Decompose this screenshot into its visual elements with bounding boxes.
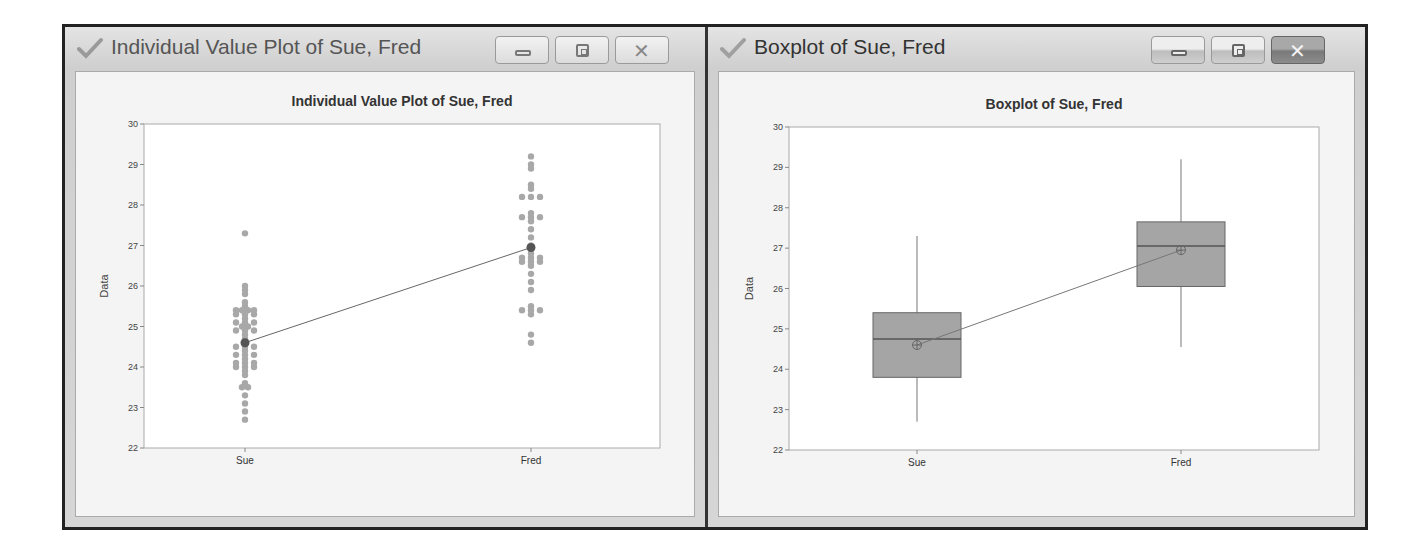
checkmark-icon xyxy=(720,37,746,59)
data-point xyxy=(528,161,534,167)
chart-title: Boxplot of Sue, Fred xyxy=(986,96,1123,112)
individual-value-plot-window: Individual Value Plot of Sue, Fred ✕ Ind… xyxy=(65,27,708,527)
plot-area: Boxplot of Sue, Fred222324252627282930Da… xyxy=(718,71,1355,517)
y-tick-label: 22 xyxy=(128,443,138,453)
data-point xyxy=(242,230,248,236)
y-axis-label: Data xyxy=(743,276,755,300)
window-title: Individual Value Plot of Sue, Fred xyxy=(111,35,421,59)
window-title: Boxplot of Sue, Fred xyxy=(754,35,945,59)
checkmark-icon xyxy=(77,37,103,59)
data-point xyxy=(528,226,534,232)
title-bar[interactable]: Individual Value Plot of Sue, Fred ✕ xyxy=(65,27,705,71)
y-tick-label: 30 xyxy=(773,122,783,132)
data-point xyxy=(242,283,248,289)
x-tick-label: Fred xyxy=(521,455,542,466)
data-point xyxy=(528,182,534,188)
data-point xyxy=(528,287,534,293)
minimize-button[interactable] xyxy=(495,36,549,64)
maximize-button[interactable] xyxy=(555,36,609,64)
data-point xyxy=(528,271,534,277)
y-tick-label: 25 xyxy=(128,322,138,332)
data-point xyxy=(528,279,534,285)
y-tick-label: 25 xyxy=(773,324,783,334)
y-tick-label: 23 xyxy=(128,403,138,413)
y-tick-label: 29 xyxy=(128,160,138,170)
x-tick-label: Fred xyxy=(1171,457,1192,468)
data-point xyxy=(242,400,248,406)
y-tick-label: 24 xyxy=(773,364,783,374)
mean-marker xyxy=(527,243,536,252)
y-tick-label: 29 xyxy=(773,162,783,172)
y-tick-label: 28 xyxy=(773,203,783,213)
mean-marker xyxy=(241,338,250,347)
close-button[interactable]: ✕ xyxy=(1271,36,1325,64)
y-tick-label: 24 xyxy=(128,362,138,372)
minimize-icon xyxy=(515,50,531,56)
individual-value-chart: Individual Value Plot of Sue, Fred222324… xyxy=(76,72,694,516)
chart-title: Individual Value Plot of Sue, Fred xyxy=(292,93,513,109)
x-tick-label: Sue xyxy=(236,455,254,466)
boxplot-chart: Boxplot of Sue, Fred222324252627282930Da… xyxy=(719,72,1354,516)
data-point xyxy=(242,416,248,422)
title-bar[interactable]: Boxplot of Sue, Fred ✕ xyxy=(708,27,1365,71)
data-point xyxy=(528,153,534,159)
data-point xyxy=(528,331,534,337)
app-frame: Individual Value Plot of Sue, Fred ✕ Ind… xyxy=(62,24,1368,530)
data-point xyxy=(528,303,534,309)
y-axis-label: Data xyxy=(98,274,110,298)
y-tick-label: 26 xyxy=(128,281,138,291)
plot-frame xyxy=(789,127,1319,450)
y-tick-label: 27 xyxy=(773,243,783,253)
data-point xyxy=(528,234,534,240)
y-tick-label: 30 xyxy=(128,119,138,129)
data-point xyxy=(528,194,534,200)
maximize-button[interactable] xyxy=(1211,36,1265,64)
y-tick-label: 22 xyxy=(773,445,783,455)
close-icon: ✕ xyxy=(1289,39,1306,63)
x-tick-label: Sue xyxy=(908,457,926,468)
minimize-button[interactable] xyxy=(1151,36,1205,64)
data-point xyxy=(242,380,248,386)
close-icon: ✕ xyxy=(633,39,650,63)
y-tick-label: 27 xyxy=(128,241,138,251)
data-point xyxy=(528,210,534,216)
boxplot-window: Boxplot of Sue, Fred ✕ Boxplot of Sue, F… xyxy=(708,27,1365,527)
minimize-icon xyxy=(1171,50,1187,56)
close-button[interactable]: ✕ xyxy=(615,36,669,64)
data-point xyxy=(528,340,534,346)
y-tick-label: 28 xyxy=(128,200,138,210)
plot-area: Individual Value Plot of Sue, Fred222324… xyxy=(75,71,695,517)
data-point xyxy=(242,408,248,414)
data-point xyxy=(242,392,248,398)
data-point xyxy=(242,299,248,305)
y-tick-label: 26 xyxy=(773,284,783,294)
y-tick-label: 23 xyxy=(773,405,783,415)
plot-frame xyxy=(144,124,660,448)
